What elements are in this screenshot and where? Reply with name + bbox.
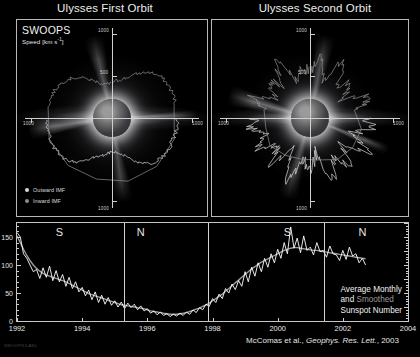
right-axis-tick xyxy=(406,240,408,241)
x-tick xyxy=(213,318,214,321)
right-axis-tick xyxy=(406,262,408,263)
right-axis-tick xyxy=(406,301,408,302)
pole-marker-n: N xyxy=(358,226,366,238)
instrument-label: SWOOPS xyxy=(22,24,70,36)
right-axis-tick xyxy=(406,243,408,244)
right-axis-tick xyxy=(404,279,408,280)
right-axis-tick xyxy=(406,318,408,319)
inward-imf-marker-icon xyxy=(25,199,29,203)
y-axis-label-100: 100 xyxy=(1,262,13,269)
polar-rtick-1000-bottom: 1000 xyxy=(98,206,109,211)
y-tick xyxy=(17,287,19,288)
y-tick xyxy=(17,304,19,305)
x-axis-label-1992: 1992 xyxy=(9,324,25,333)
right-axis-tick xyxy=(404,223,408,224)
right-axis-tick xyxy=(406,226,408,227)
y-tick xyxy=(17,271,19,272)
right-axis-tick xyxy=(406,245,408,246)
right-axis-tick xyxy=(406,285,408,286)
panel-title-first-orbit: Ulysses First Orbit xyxy=(0,2,210,14)
y-axis-label-150: 150 xyxy=(1,234,13,241)
polar-plot-first-orbit: 1000 500 1000 1000 1000 SWOOPS Speed [km… xyxy=(16,19,208,217)
polar-horizontal-axis xyxy=(25,118,199,119)
right-axis-tick xyxy=(406,313,408,314)
right-axis-tick xyxy=(406,231,408,232)
y-tick xyxy=(17,237,21,238)
pole-marker-s: S xyxy=(284,226,291,238)
y-axis-label-50: 50 xyxy=(5,290,13,297)
y-tick xyxy=(17,259,19,260)
credit-year: , 2003 xyxy=(377,336,399,345)
x-axis-label-1998: 1998 xyxy=(204,324,220,333)
right-axis-tick xyxy=(406,259,408,260)
figure-credit: McComas et al., Geophys. Res. Lett., 200… xyxy=(246,336,399,345)
right-axis-tick xyxy=(406,271,408,272)
speed-axis-label: Speed [km s-1] xyxy=(22,37,70,45)
polar-plot-second-orbit: 1000 500 1000 1000 1000 xyxy=(211,19,409,217)
right-axis-tick xyxy=(406,234,408,235)
x-tick xyxy=(147,318,148,321)
y-tick xyxy=(17,282,19,283)
legend-item-inward-imf: Inward IMF xyxy=(25,198,65,204)
watermark-label: SWOOPS/LANL xyxy=(4,343,38,348)
annotation-line-2: and Smoothed xyxy=(341,295,402,306)
pole-marker-s: S xyxy=(56,226,63,238)
y-tick xyxy=(17,248,19,249)
right-axis-tick xyxy=(406,254,408,255)
sunspot-number-plot: SNSN 050100150 Average Monthly and Smoot… xyxy=(16,222,409,322)
polar-rtick-500: 500 xyxy=(298,70,306,75)
annotation-smoothed: Smoothed xyxy=(356,295,393,304)
y-tick xyxy=(17,231,19,232)
right-axis-tick xyxy=(406,229,408,230)
right-axis-tick xyxy=(406,282,408,283)
legend-label-inward-imf: Inward IMF xyxy=(33,198,61,204)
x-axis-label-2000: 2000 xyxy=(269,324,285,333)
y-tick xyxy=(17,265,21,266)
annotation-line-1: Average Monthly xyxy=(341,285,402,296)
x-axis-label-1994: 1994 xyxy=(74,324,90,333)
annotation-line-3: Sunspot Number xyxy=(341,306,402,317)
right-axis-tick xyxy=(406,268,408,269)
right-axis-tick xyxy=(404,265,408,266)
right-axis-tick xyxy=(406,296,408,297)
y-tick xyxy=(17,299,19,300)
speed-axis-label-close: ] xyxy=(62,38,64,45)
credit-journal: Geophys. Res. Lett. xyxy=(306,336,377,345)
x-axis-label-2004: 2004 xyxy=(400,324,416,333)
annotation-and: and xyxy=(341,295,357,304)
polar-rtick-1000-right: 1000 xyxy=(192,121,203,126)
right-axis-tick xyxy=(406,310,408,311)
right-axis-tick xyxy=(406,273,408,274)
sunspot-annotation: Average Monthly and Smoothed Sunspot Num… xyxy=(341,285,402,317)
swoops-label-group: SWOOPS Speed [km s-1] xyxy=(22,24,70,45)
outward-imf-marker-icon xyxy=(25,188,29,192)
right-axis-tick xyxy=(406,299,408,300)
right-axis-tick xyxy=(404,237,408,238)
right-axis-tick xyxy=(406,257,408,258)
right-axis-tick xyxy=(406,287,408,288)
x-tick xyxy=(408,318,409,321)
ulysses-swoops-figure: Ulysses First Orbit Ulysses Second Orbit… xyxy=(0,0,420,357)
x-tick xyxy=(343,318,344,321)
y-tick xyxy=(17,321,21,322)
polar-rtick-1000-left: 1000 xyxy=(23,121,34,126)
polar-rtick-500: 500 xyxy=(100,70,108,75)
imf-legend: Outward IMF Inward IMF xyxy=(25,182,65,204)
pole-divider-line xyxy=(208,223,209,321)
y-tick xyxy=(17,254,19,255)
right-axis-tick xyxy=(406,290,408,291)
x-axis-label-1996: 1996 xyxy=(139,324,155,333)
right-axis-tick xyxy=(406,304,408,305)
x-axis-label-2002: 2002 xyxy=(335,324,351,333)
right-axis-tick xyxy=(404,307,408,308)
polar-rtick-1000-right: 1000 xyxy=(393,121,404,126)
polar-horizontal-axis xyxy=(220,118,400,119)
pole-divider-line xyxy=(124,223,125,321)
polar-rtick-1000-top: 1000 xyxy=(296,28,307,33)
x-tick xyxy=(278,318,279,321)
right-axis-tick xyxy=(404,251,408,252)
legend-item-outward-imf: Outward IMF xyxy=(25,187,65,193)
y-tick xyxy=(17,310,19,311)
y-tick xyxy=(17,315,19,316)
x-tick xyxy=(82,318,83,321)
